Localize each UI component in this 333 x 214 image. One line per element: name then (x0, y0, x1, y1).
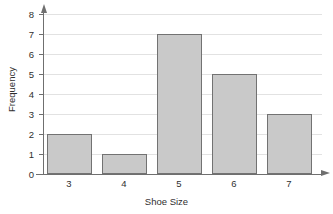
x-axis-title: Shoe Size (0, 196, 333, 207)
bar-chart: 0 1 2 3 4 5 6 7 8 3 4 5 6 7 Frequency Sh… (0, 0, 333, 214)
y-axis-title: Frequency (6, 55, 17, 125)
x-tick-label-3: 3 (66, 179, 71, 189)
x-tick-label-7: 7 (286, 179, 291, 189)
x-tick-label-6: 6 (231, 179, 236, 189)
x-tick-label-5: 5 (176, 179, 181, 189)
x-tick-labels: 3 4 5 6 7 (0, 0, 333, 214)
x-tick-label-4: 4 (121, 179, 126, 189)
